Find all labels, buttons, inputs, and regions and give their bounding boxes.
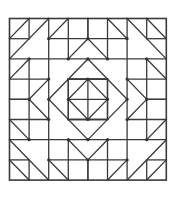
diagonal-line [88, 79, 108, 99]
vertex-dot [106, 138, 109, 141]
vertex-dot [86, 158, 89, 161]
vertex-dot [126, 78, 129, 81]
diagonal-line [88, 39, 108, 59]
vertex-dot [28, 98, 31, 101]
diagonal-line [68, 99, 88, 119]
diagonal-line [127, 99, 147, 119]
diagonal-line [108, 19, 128, 39]
vertex-dot [67, 98, 70, 101]
vertex-dot [145, 138, 148, 141]
vertex-dot [67, 57, 70, 60]
diagonal-line [68, 79, 88, 99]
vertex-dot [47, 118, 50, 121]
vertex-dot [86, 37, 89, 40]
diagonal-line [147, 120, 167, 140]
vertex-dot [28, 57, 31, 60]
diagonal-line [68, 39, 88, 59]
diagonal-line [10, 19, 30, 39]
diagonal-line [127, 79, 147, 99]
vertex-dot [86, 78, 89, 81]
vertex-dot [86, 57, 89, 60]
quilt-block-diagram [0, 0, 172, 202]
diagonal-line [108, 160, 128, 180]
vertex-dot [47, 78, 50, 81]
diagonal-line [10, 160, 30, 180]
diagonal-line [10, 120, 30, 140]
diagonal-line [147, 160, 167, 180]
diagonal-line [147, 59, 167, 79]
vertex-dot [126, 37, 129, 40]
diagonal-line [88, 99, 108, 119]
vertex-dot [126, 98, 129, 101]
diagonal-line [147, 19, 167, 39]
vertex-dot [47, 158, 50, 161]
diagonal-line [10, 59, 30, 79]
diagonal-line [29, 79, 49, 99]
vertex-dot [145, 57, 148, 60]
vertex-dot [106, 98, 109, 101]
vertex-dot [106, 57, 109, 60]
diagonal-line [88, 140, 108, 160]
diagonal-line [68, 140, 88, 160]
vertex-dot [126, 118, 129, 121]
diagonal-line [49, 160, 69, 180]
vertex-dot [86, 118, 89, 121]
diagonal-line [49, 19, 69, 39]
vertex-dot [47, 37, 50, 40]
diagonal-line [29, 99, 49, 119]
vertex-dot [86, 138, 89, 141]
vertex-dot [28, 138, 31, 141]
vertex-dot [126, 158, 129, 161]
vertex-dot [145, 98, 148, 101]
vertex-dot [47, 98, 50, 101]
vertex-dot [67, 138, 70, 141]
